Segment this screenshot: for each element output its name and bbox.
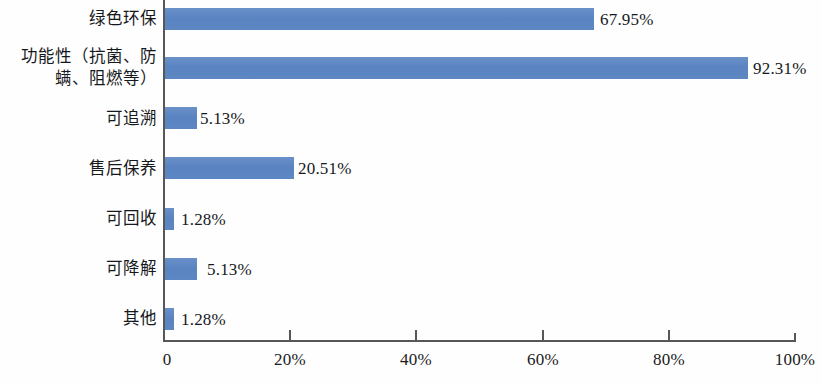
- category-label: 可追溯: [0, 108, 157, 130]
- bar-value-label: 20.51%: [298, 159, 352, 179]
- x-tick-label-60: 60%: [527, 350, 559, 370]
- x-axis-right-cap: [794, 333, 796, 342]
- x-tick-20: [289, 330, 291, 341]
- y-axis-line: [163, 0, 165, 341]
- bar-value-label: 67.95%: [600, 10, 654, 30]
- chart-row: 可降解 5.13%: [0, 250, 821, 300]
- bar-可回收: [165, 208, 174, 230]
- bar-value-label: 1.28%: [181, 210, 226, 230]
- category-label: 其他: [0, 308, 157, 330]
- x-tick-label-40: 40%: [400, 350, 432, 370]
- bar-可降解: [165, 258, 197, 280]
- chart-row: 可回收 1.28%: [0, 200, 821, 250]
- x-axis-line: [163, 340, 796, 342]
- category-label: 功能性（抗菌、防 螨、阻燃等）: [0, 46, 157, 90]
- bar-value-label: 5.13%: [207, 260, 252, 280]
- chart-row: 可追溯 5.13%: [0, 100, 821, 150]
- x-tick-label-80: 80%: [653, 350, 685, 370]
- category-label: 绿色环保: [0, 8, 157, 30]
- chart-row: 其他 1.28%: [0, 300, 821, 350]
- bar-可追溯: [165, 107, 197, 129]
- x-axis-left-cap: [163, 333, 165, 341]
- bar-功能性: [165, 57, 748, 79]
- chart-row: 功能性（抗菌、防 螨、阻燃等） 92.31%: [0, 50, 821, 100]
- category-label: 可回收: [0, 208, 157, 230]
- bar-value-label: 92.31%: [753, 59, 807, 79]
- x-tick-label-100: 100%: [775, 350, 815, 370]
- horizontal-bar-chart: 绿色环保 67.95% 功能性（抗菌、防 螨、阻燃等） 92.31% 可追溯 5…: [0, 0, 821, 386]
- bar-售后保养: [165, 157, 294, 179]
- chart-row: 售后保养 20.51%: [0, 150, 821, 200]
- x-tick-40: [415, 330, 417, 341]
- x-tick-label-20: 20%: [274, 350, 306, 370]
- chart-row: 绿色环保 67.95%: [0, 0, 821, 50]
- bar-value-label: 5.13%: [200, 109, 245, 129]
- bar-value-label: 1.28%: [181, 310, 226, 330]
- x-tick-80: [668, 330, 670, 341]
- x-tick-60: [542, 330, 544, 341]
- bar-其他: [165, 308, 174, 330]
- bar-绿色环保: [165, 8, 594, 30]
- x-tick-label-0: 0: [163, 350, 172, 370]
- category-label: 售后保养: [0, 158, 157, 180]
- category-label: 可降解: [0, 258, 157, 280]
